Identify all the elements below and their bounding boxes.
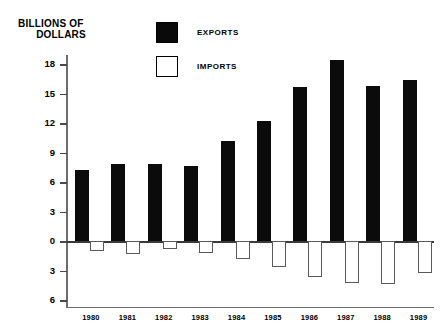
y-tick: 18 xyxy=(60,64,67,66)
x-axis-label: 1983 xyxy=(180,313,220,322)
bar-group xyxy=(329,55,363,308)
bar-group xyxy=(402,55,436,308)
bar-group xyxy=(110,55,144,308)
bar-group xyxy=(74,55,108,308)
y-tick-label: 9 xyxy=(33,147,55,158)
legend-swatch-exports-icon xyxy=(156,22,178,43)
bar-imports xyxy=(163,241,177,249)
title-line-1: BILLIONS OF xyxy=(18,18,84,29)
bar-exports xyxy=(221,141,235,241)
bar-imports xyxy=(236,241,250,259)
bar-group xyxy=(147,55,181,308)
y-tick-label: 0 xyxy=(33,235,55,246)
bar-group xyxy=(220,55,254,308)
y-tick: 6 xyxy=(60,300,67,302)
x-axis-label: 1986 xyxy=(289,313,329,322)
bar-exports xyxy=(148,164,162,241)
bar-imports xyxy=(418,241,432,273)
bar-exports xyxy=(184,166,198,241)
bar-imports xyxy=(308,241,322,277)
title-line-2: DOLLARS xyxy=(18,29,104,41)
y-tick: 12 xyxy=(60,123,67,125)
x-axis-label: 1981 xyxy=(107,313,147,322)
x-axis-label: 1988 xyxy=(362,313,402,322)
y-tick-label: 3 xyxy=(33,265,55,276)
bar-exports xyxy=(111,164,125,241)
y-tick: 0 xyxy=(60,241,67,243)
y-tick-label: 15 xyxy=(33,88,55,99)
x-axis-label: 1980 xyxy=(71,313,111,322)
bar-exports xyxy=(75,170,89,241)
bar-imports xyxy=(381,241,395,284)
bar-exports xyxy=(257,121,271,241)
y-tick-label: 18 xyxy=(33,58,55,69)
bar-group xyxy=(292,55,326,308)
bar-group xyxy=(183,55,217,308)
bar-imports xyxy=(345,241,359,283)
plot-area: 181512963036 198019811982198319841985198… xyxy=(66,55,434,308)
y-tick-label: 3 xyxy=(33,206,55,217)
y-tick: 15 xyxy=(60,94,67,96)
y-tick-label: 12 xyxy=(33,117,55,128)
y-tick: 9 xyxy=(60,153,67,155)
y-tick: 3 xyxy=(60,212,67,214)
y-tick-label: 6 xyxy=(33,176,55,187)
y-tick: 3 xyxy=(60,271,67,273)
bar-imports xyxy=(272,241,286,267)
bar-chart: BILLIONS OF DOLLARS EXPORTS IMPORTS 1815… xyxy=(0,0,444,335)
legend-label-exports: EXPORTS xyxy=(197,28,239,37)
bar-exports xyxy=(293,87,307,241)
bar-imports xyxy=(90,241,104,251)
bar-group xyxy=(365,55,399,308)
x-axis-label: 1987 xyxy=(326,313,366,322)
bar-imports xyxy=(199,241,213,253)
x-axis-label: 1989 xyxy=(399,313,439,322)
bar-group xyxy=(256,55,290,308)
bar-exports xyxy=(330,60,344,241)
x-axis-label: 1984 xyxy=(217,313,257,322)
x-axis-label: 1982 xyxy=(144,313,184,322)
bar-exports xyxy=(403,80,417,241)
y-tick-label: 6 xyxy=(33,294,55,305)
legend-item-exports: EXPORTS xyxy=(156,20,306,44)
bar-imports xyxy=(126,241,140,254)
y-tick: 6 xyxy=(60,182,67,184)
page-title: BILLIONS OF DOLLARS xyxy=(18,6,148,52)
bar-exports xyxy=(366,86,380,241)
x-axis-label: 1985 xyxy=(253,313,293,322)
